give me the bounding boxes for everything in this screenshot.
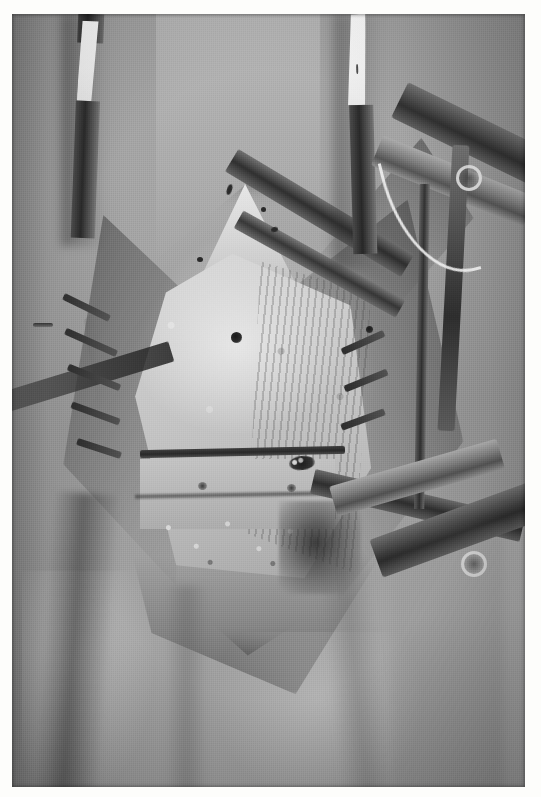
pin-right-tape-mark [355,64,358,74]
pin-left-shaft-lower [70,101,100,239]
drill-hole-1 [231,332,242,343]
graft-hole-right [287,484,296,492]
page-root [0,0,541,797]
pin-right-shaft-lower [348,105,377,254]
drape-fold-b [166,586,207,787]
drape-fold-d [392,524,505,787]
suture-knot-left [33,323,54,327]
pin-right-tape [344,14,367,105]
surgical-photograph [12,14,525,787]
